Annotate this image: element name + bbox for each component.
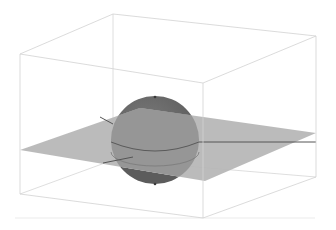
sphere-top-pole xyxy=(154,96,157,99)
sphere-bottom-pole xyxy=(154,183,157,186)
3d-scene xyxy=(0,0,336,230)
